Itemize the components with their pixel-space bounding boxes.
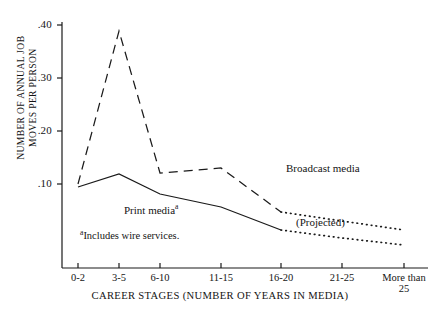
- footnote-text: Includes wire services.: [83, 230, 179, 241]
- y-tick-label-10: .10: [26, 177, 52, 189]
- y-axis-ticks: [57, 25, 62, 184]
- x-tick-label-0-2: 0-2: [71, 272, 85, 283]
- plot-area: [0, 0, 440, 309]
- print-media-label: Print mediaa: [124, 204, 178, 216]
- print-media-projected-line: [281, 230, 404, 245]
- broadcast-media-line: [78, 31, 281, 212]
- chart-figure: .40 .30 .20 .10 NUMBER OF ANNUAL JOB MOV…: [0, 0, 440, 309]
- broadcast-media-label: Broadcast media: [286, 162, 360, 174]
- y-axis-title-line2: MOVES PER PERSON: [27, 23, 39, 173]
- x-tick-label-21-25: 21-25: [330, 272, 355, 283]
- x-tick-label-16-20: 16-20: [269, 272, 294, 283]
- x-tick-label-11-15: 11-15: [209, 272, 233, 283]
- print-media-line: [78, 174, 281, 230]
- y-axis-title: NUMBER OF ANNUAL JOB MOVES PER PERSON: [15, 23, 38, 173]
- y-axis-title-line1: NUMBER OF ANNUAL JOB: [15, 23, 27, 173]
- print-media-label-text: Print media: [124, 204, 175, 216]
- x-tick-label-6-10: 6-10: [150, 272, 169, 283]
- projected-label: (Projected): [296, 216, 345, 228]
- x-axis-title: CAREER STAGES (NUMBER OF YEARS IN MEDIA): [0, 290, 440, 301]
- x-axis-ticks: [78, 263, 404, 268]
- footnote: aIncludes wire services.: [80, 230, 179, 241]
- print-media-footnote-marker: a: [175, 202, 178, 211]
- x-tick-label-3-5: 3-5: [112, 272, 126, 283]
